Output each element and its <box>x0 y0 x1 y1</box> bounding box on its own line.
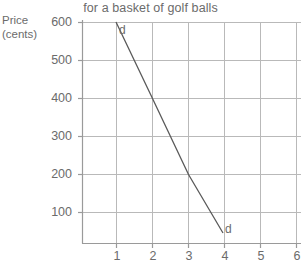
y-tick-label-400: 400 <box>28 91 72 105</box>
y-tick-label-100: 100 <box>28 205 72 219</box>
y-tick-label-300: 300 <box>28 129 72 143</box>
x-tick-label-4: 4 <box>215 249 235 263</box>
x-tick-label-5: 5 <box>251 249 271 263</box>
vertical-gridlines <box>117 22 297 243</box>
curve-label-top: d <box>119 23 126 37</box>
y-tick-label-600: 600 <box>28 15 72 29</box>
x-tick-label-1: 1 <box>107 249 127 263</box>
curve-label-bottom: d <box>225 222 232 236</box>
demand-curve-figure: for a basket of golf balls Price (cents) <box>0 0 301 265</box>
x-tick-label-2: 2 <box>143 249 163 263</box>
x-tick-label-6: 6 <box>287 249 301 263</box>
x-tick-label-3: 3 <box>179 249 199 263</box>
y-axis-ticks <box>78 23 82 213</box>
y-tick-label-200: 200 <box>28 167 72 181</box>
horizontal-gridlines <box>82 23 301 213</box>
y-tick-label-500: 500 <box>28 53 72 67</box>
demand-curve-line <box>116 22 223 233</box>
